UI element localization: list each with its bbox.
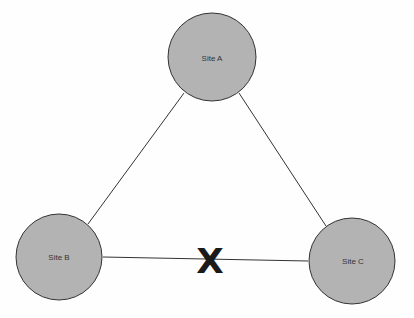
site-b-label: Site B bbox=[48, 253, 69, 262]
edge-a-c bbox=[239, 93, 326, 226]
site-c-label: Site C bbox=[342, 257, 364, 266]
network-diagram: Site A Site B Site C X bbox=[0, 0, 414, 318]
site-a-label: Site A bbox=[202, 54, 223, 63]
broken-link-x-icon: X bbox=[196, 244, 224, 278]
edge-a-b bbox=[88, 93, 184, 224]
